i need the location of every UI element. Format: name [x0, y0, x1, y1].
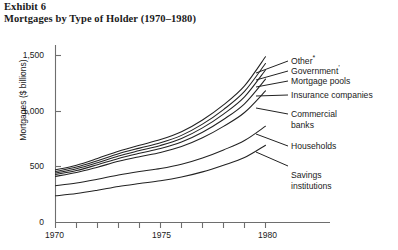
series-label-mortgage-pools: Mortgage pools	[291, 76, 350, 87]
plot-area: Mortgages ($ billions) 1,500 1,000 500 0…	[0, 0, 398, 250]
series-label-insurance-companies: Insurance companies	[291, 90, 373, 101]
series-label-text: Other	[291, 56, 313, 66]
leader-line-households	[256, 134, 288, 146]
footnote-marker-government: ’	[338, 64, 340, 71]
leader-line-savings	[256, 152, 288, 166]
data-series-group	[56, 57, 266, 196]
series-line	[56, 70, 266, 173]
series-label-other: Other*	[291, 56, 315, 67]
series-label-government: Government’	[291, 66, 340, 77]
series-label-text: Government	[291, 66, 338, 76]
series-label-text-line1: Commercial	[291, 109, 337, 120]
series-line	[56, 79, 266, 174]
series-label-text-line1: Savings	[291, 170, 332, 181]
series-line	[56, 126, 266, 186]
series-label-text-line2: institutions	[291, 181, 332, 192]
leader-line-mortgage-pools	[256, 81, 288, 87]
chart-svg	[0, 0, 398, 250]
series-label-text-line2: banks	[291, 120, 337, 131]
chart-figure: Exhibit 6 Mortgages by Type of Holder (1…	[0, 0, 398, 250]
series-label-households: Households	[291, 141, 336, 152]
leader-line-insurance	[256, 95, 288, 96]
series-label-savings-institutions: Savings institutions	[291, 170, 332, 191]
footnote-marker-other: *	[313, 54, 316, 61]
leader-line-commercial-banks	[256, 108, 288, 114]
series-line	[56, 63, 266, 171]
series-label-commercial-banks: Commercial banks	[291, 109, 337, 130]
